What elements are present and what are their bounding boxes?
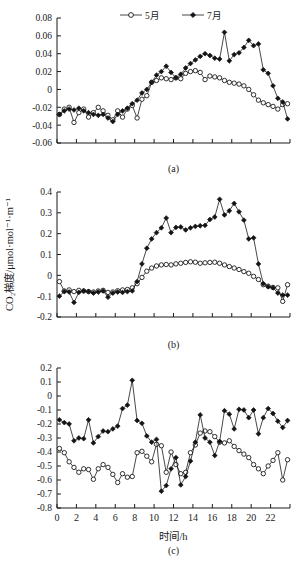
data-point: [276, 451, 280, 455]
data-point: [251, 235, 256, 240]
data-point: [203, 51, 208, 56]
data-point: [154, 437, 159, 442]
data-point: [271, 458, 275, 462]
data-point: [232, 427, 237, 432]
data-point: [188, 260, 192, 264]
data-point: [169, 450, 173, 454]
data-point: [256, 41, 261, 46]
data-point: [82, 467, 86, 471]
data-point: [145, 269, 149, 273]
data-point: [193, 68, 197, 72]
y-tick-label: -0.2: [37, 312, 52, 322]
x-axis-title: 时间/h: [159, 530, 188, 542]
data-point: [149, 460, 153, 464]
data-point: [77, 110, 81, 114]
y-tick-label: -0.1: [37, 405, 52, 415]
data-point: [246, 415, 251, 420]
data-point: [193, 224, 198, 229]
data-point: [140, 421, 145, 426]
data-point: [183, 228, 188, 233]
y-tick-label: -0.4: [37, 447, 52, 457]
data-point: [256, 98, 260, 102]
data-point: [57, 279, 61, 283]
data-point: [213, 434, 217, 438]
chart-panel-a: 0.080.060.040.020-0.02-0.04-0.06(a)5月7月: [0, 0, 302, 180]
chart-svg-b: 0.40.30.20.10-0.1-0.2(b)CO₂梯度/μmol·mol⁻¹…: [0, 180, 302, 358]
x-tick-label: 10: [149, 512, 159, 523]
chart-svg-a: 0.080.060.040.020-0.02-0.04-0.06(a)5月7月: [0, 0, 302, 180]
legend-marker-open-circle: [129, 13, 134, 18]
data-point: [159, 263, 163, 267]
data-point: [276, 107, 280, 111]
data-point: [285, 116, 290, 121]
data-point: [188, 69, 192, 73]
x-tick-label: 2: [74, 512, 79, 523]
data-point: [203, 261, 207, 265]
data-point: [159, 76, 163, 80]
data-point: [266, 102, 270, 106]
data-point: [232, 444, 236, 448]
data-point: [96, 467, 100, 471]
y-tick-label: 0.3: [40, 208, 52, 218]
data-point: [217, 57, 222, 62]
y-tick-label: -0.5: [37, 461, 52, 471]
y-tick-label: -0.6: [37, 475, 52, 485]
legend-label: 5月: [145, 11, 160, 21]
data-point: [285, 102, 289, 106]
y-tick-label: -0.04: [32, 121, 52, 131]
panel-label: (a): [168, 163, 179, 175]
data-point: [237, 82, 241, 86]
data-point: [140, 449, 144, 453]
data-point: [77, 470, 81, 474]
data-point: [183, 260, 187, 264]
data-point: [188, 225, 193, 230]
data-point: [72, 108, 77, 113]
y-axis-title: CO₂梯度/μmol·mol⁻¹·m⁻¹: [3, 198, 15, 311]
y-tick-label: 0.04: [35, 49, 52, 59]
chart-panel-b: 0.40.30.20.10-0.1-0.2(b)CO₂梯度/μmol·mol⁻¹…: [0, 180, 302, 358]
data-point: [251, 408, 256, 413]
data-point: [237, 407, 242, 412]
data-point: [247, 455, 251, 459]
data-point: [67, 422, 72, 427]
legend-marker-filled-diamond: [190, 12, 195, 17]
data-point: [217, 76, 221, 80]
data-point: [285, 283, 289, 287]
data-point: [213, 75, 217, 79]
data-point: [145, 454, 149, 458]
data-point: [251, 93, 255, 97]
data-point: [285, 418, 290, 423]
data-point: [217, 197, 222, 202]
data-point: [193, 260, 197, 264]
legend-label: 7月: [207, 11, 222, 21]
data-point: [212, 453, 217, 458]
data-point: [130, 378, 135, 383]
y-tick-label: 0.1: [40, 377, 52, 387]
data-point: [246, 236, 251, 241]
data-point: [96, 105, 100, 109]
y-tick-label: 0.2: [40, 229, 52, 239]
data-point: [145, 93, 149, 97]
data-point: [285, 458, 289, 462]
data-point: [164, 216, 169, 221]
data-point: [203, 77, 207, 81]
data-point: [237, 448, 241, 452]
data-point: [179, 261, 183, 265]
data-point: [212, 215, 217, 220]
data-point: [72, 465, 76, 469]
x-tick-label: 12: [169, 512, 179, 523]
data-point: [227, 264, 231, 268]
data-point: [174, 262, 178, 266]
data-point: [86, 467, 90, 471]
data-point: [106, 290, 110, 294]
data-point: [222, 263, 226, 267]
data-point: [179, 77, 183, 81]
y-tick-label: 0.06: [35, 31, 52, 41]
data-point: [256, 277, 260, 281]
data-point: [115, 424, 120, 429]
data-point: [198, 431, 202, 435]
y-tick-label: -0.2: [37, 419, 52, 429]
data-point: [256, 431, 261, 436]
data-point: [110, 427, 115, 432]
y-tick-label: 0.4: [40, 187, 52, 197]
